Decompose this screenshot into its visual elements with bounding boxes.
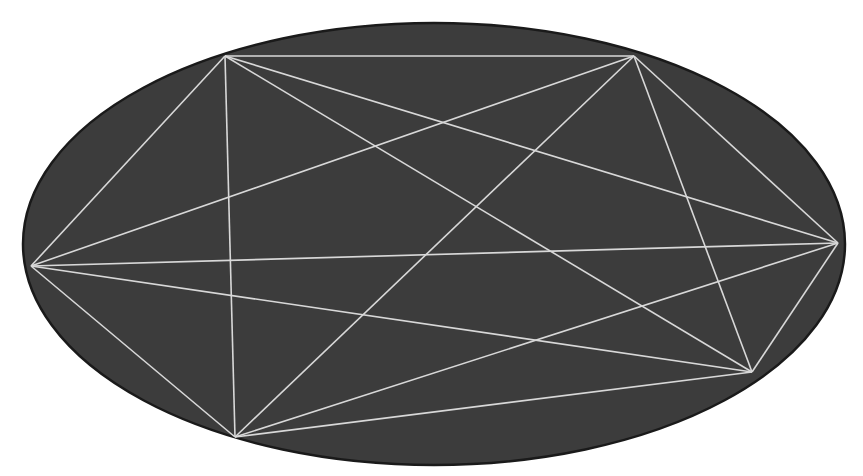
ellipse-region (23, 23, 845, 465)
complete-graph-diagram (0, 0, 863, 476)
